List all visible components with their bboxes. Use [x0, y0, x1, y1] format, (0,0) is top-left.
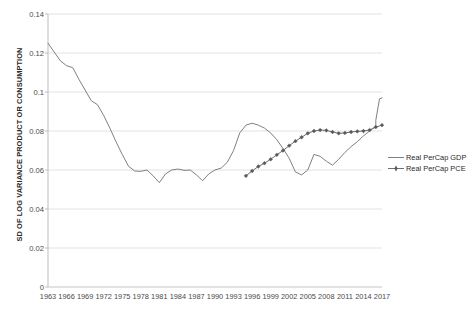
- chart-container: SD OF LOG VARIANCE PRODUCT OR CONSUMPTIO…: [0, 0, 467, 321]
- x-tick-label: 2014: [355, 292, 371, 301]
- legend: Real PerCap GDP Real PerCap PCE: [388, 152, 466, 174]
- x-tick-label: 1966: [58, 292, 74, 301]
- legend-line-marker-swatch-pce: [388, 164, 404, 173]
- legend-item-real-percap-gdp[interactable]: Real PerCap GDP: [388, 152, 466, 163]
- x-tick-label: 2005: [300, 292, 316, 301]
- x-tick-label: 1990: [207, 292, 223, 301]
- x-tick-label: 2011: [337, 292, 353, 301]
- x-tick-label: 1963: [40, 292, 56, 301]
- x-tick-label: 2017: [374, 292, 390, 301]
- x-tick-label: 2002: [281, 292, 297, 301]
- legend-label-pce: Real PerCap PCE: [406, 164, 466, 173]
- x-tick-label: 1981: [151, 292, 167, 301]
- legend-item-real-percap-pce[interactable]: Real PerCap PCE: [388, 163, 466, 174]
- x-tick-label: 1996: [244, 292, 260, 301]
- x-tick-label: 1993: [225, 292, 241, 301]
- legend-line-swatch-gdp: [388, 153, 404, 162]
- x-tick-label: 1972: [95, 292, 111, 301]
- x-tick-label: 1978: [133, 292, 149, 301]
- x-tick-label: 1987: [188, 292, 204, 301]
- x-tick-label: 1999: [262, 292, 278, 301]
- x-tick-label: 1969: [77, 292, 93, 301]
- x-tick-label: 1984: [170, 292, 186, 301]
- x-tick-label: 1975: [114, 292, 130, 301]
- legend-label-gdp: Real PerCap GDP: [406, 153, 466, 162]
- x-tick-label: 2008: [318, 292, 334, 301]
